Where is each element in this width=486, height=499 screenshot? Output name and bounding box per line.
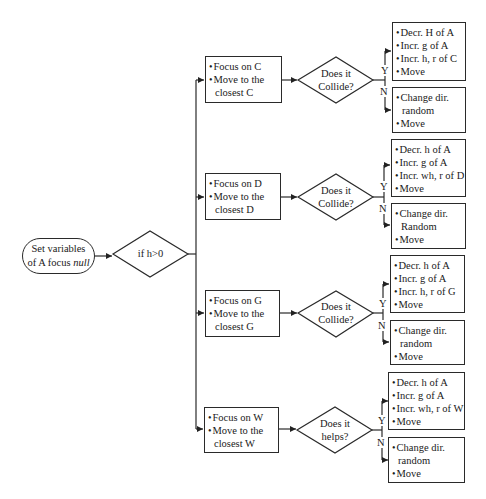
action-item: Change dir. [392, 441, 461, 454]
decision-line1: Does it [306, 300, 366, 313]
move-item-cont: closest W [208, 437, 275, 450]
action-item-cont: random [396, 104, 462, 117]
action-item: Change dir. [394, 324, 461, 337]
action-item: Move [392, 415, 461, 428]
no-label: N [379, 203, 387, 214]
decision-line1: Does it [305, 417, 365, 430]
no-label: N [380, 86, 388, 97]
condition-label: if h>0 [118, 247, 183, 260]
action-item-cont: Random [395, 220, 462, 233]
move-item-cont: closest C [209, 86, 278, 99]
decision-w: Does it helps? [305, 417, 365, 443]
action-item-cont: random [394, 337, 461, 350]
no-label: N [377, 437, 385, 448]
decision-d: Does it Collide? [306, 184, 366, 210]
action-item: Incr. h, r of G [394, 285, 461, 298]
action-item: Move [395, 182, 462, 195]
yes-label: Y [378, 415, 386, 426]
focus-item: Focus on W [208, 411, 275, 424]
action-item: Decr. h of A [392, 376, 461, 389]
action-item: Move [394, 350, 461, 363]
focus-box-w: Focus on W Move to the closest W [204, 407, 279, 453]
yes-label: Y [380, 181, 388, 192]
no-actions-g: Change dir. random Move [390, 320, 465, 365]
start-line2: of A focus null [23, 256, 94, 270]
yes-actions-w: Decr. h of A Incr. g of A Incr. wh, r of… [388, 372, 465, 430]
decision-line2: Collide? [306, 80, 366, 93]
action-item: Incr. g of A [394, 272, 461, 285]
action-item: Move [392, 467, 461, 480]
no-label: N [378, 320, 386, 331]
start-node: Set variables of A focus null [22, 238, 95, 274]
focus-item: Focus on G [209, 294, 276, 307]
yes-label: Y [381, 65, 389, 76]
decision-g: Does it Collide? [306, 300, 366, 326]
move-item-cont: closest D [209, 203, 277, 216]
no-actions-d: Change dir. Random Move [391, 203, 466, 249]
yes-actions-c: Decr. H of A Incr. g of A Incr. h, r of … [392, 22, 466, 81]
yes-label: Y [379, 298, 387, 309]
move-item: Move to the [208, 424, 275, 437]
decision-line2: helps? [305, 430, 365, 443]
action-item: Incr. wh, r of D [395, 169, 462, 182]
move-item: Move to the [209, 73, 278, 86]
action-item: Decr. h of A [394, 259, 461, 272]
action-item: Change dir. [396, 91, 462, 104]
no-actions-c: Change dir. random Move [392, 87, 466, 133]
action-item-cont: random [392, 454, 461, 467]
action-item: Move [396, 117, 462, 130]
action-item: Incr. g of A [395, 156, 462, 169]
move-item: Move to the [209, 307, 276, 320]
focus-box-c: Focus on C Move to the closest C [205, 56, 282, 103]
decision-line1: Does it [306, 184, 366, 197]
action-item: Move [396, 65, 462, 78]
action-item: Decr. h of A [395, 143, 462, 156]
decision-c: Does it Collide? [306, 67, 366, 93]
yes-actions-d: Decr. h of A Incr. g of A Incr. wh, r of… [391, 139, 466, 197]
focus-item: Focus on D [209, 177, 277, 190]
focus-box-g: Focus on G Move to the closest G [205, 290, 280, 337]
action-item: Decr. H of A [396, 26, 462, 39]
decision-line2: Collide? [306, 197, 366, 210]
action-item: Incr. h, r of C [396, 52, 462, 65]
action-item: Incr. g of A [392, 389, 461, 402]
move-item: Move to the [209, 190, 277, 203]
action-item: Change dir. [395, 207, 462, 220]
decision-line2: Collide? [306, 313, 366, 326]
focus-item: Focus on C [209, 60, 278, 73]
action-item: Incr. g of A [396, 39, 462, 52]
action-item: Move [395, 233, 462, 246]
focus-box-d: Focus on D Move to the closest D [205, 173, 281, 220]
start-line1: Set variables [23, 242, 94, 256]
action-item: Incr. wh, r of W [392, 402, 461, 415]
action-item: Move [394, 298, 461, 311]
move-item-cont: closest G [209, 320, 276, 333]
no-actions-w: Change dir. random Move [388, 437, 465, 483]
yes-actions-g: Decr. h of A Incr. g of A Incr. h, r of … [390, 255, 465, 313]
decision-line1: Does it [306, 67, 366, 80]
